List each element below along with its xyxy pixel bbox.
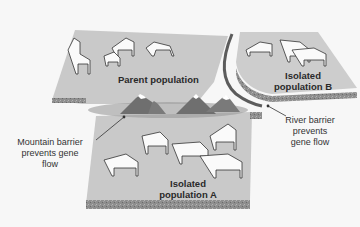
river-note-line3: gene flow: [276, 137, 344, 148]
mountain-note-line1: Mountain barrier: [14, 137, 86, 148]
river-note-line1: River barrier: [276, 115, 344, 126]
isolated-b-label-line1: Isolated: [264, 70, 342, 81]
isolated-a-label-line2: population A: [148, 189, 228, 200]
parent-population-label: Parent population: [118, 74, 199, 85]
mountain-barrier-note: Mountain barrier prevents gene flow: [14, 137, 86, 170]
isolated-b-label: Isolated population B: [264, 70, 342, 92]
isolation-diagram: Parent population Isolated population B …: [0, 0, 360, 227]
mountain-note-line2: prevents gene: [14, 148, 86, 159]
mountain-note-line3: flow: [14, 159, 86, 170]
river-barrier-note: River barrier prevents gene flow: [276, 115, 344, 148]
isolated-a-label: Isolated population A: [148, 178, 228, 200]
isolated-a-label-line1: Isolated: [148, 178, 228, 189]
river-note-line2: prevents: [276, 126, 344, 137]
isolated-b-label-line2: population B: [264, 81, 342, 92]
